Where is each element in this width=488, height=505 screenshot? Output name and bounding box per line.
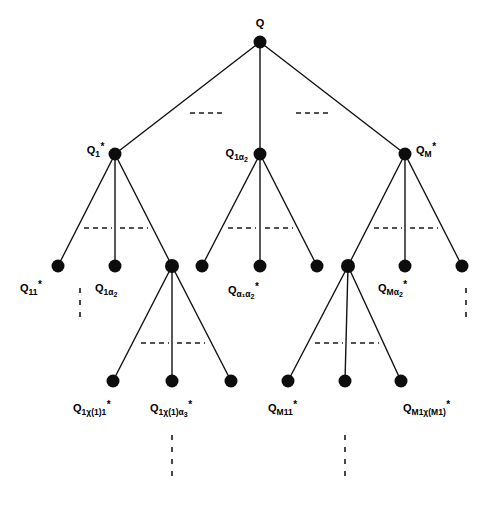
label-subscript: 1χ(1)1	[82, 406, 107, 416]
label-subscript: M1χ(M1)	[412, 406, 446, 416]
tree-edge	[172, 266, 231, 381]
label-subscript-2: 2	[114, 290, 118, 297]
node-label-level3_b: Q1α2	[95, 283, 117, 294]
tree-node-n2a	[109, 148, 122, 161]
label-base: Q	[73, 402, 82, 414]
tree-node-n3h	[399, 260, 412, 273]
label-star-superscript: *	[107, 399, 111, 410]
node-label-level3_c: Qα₁α2*	[228, 285, 258, 296]
vertical-ellipsis-layer	[80, 288, 466, 482]
label-star-superscript: *	[403, 279, 407, 290]
label-subscript: 1	[95, 148, 100, 158]
tree-edge	[345, 266, 348, 381]
node-label-level2_mid: Q1α2	[226, 148, 248, 159]
node-label-level3_d: QMα2*	[378, 283, 407, 294]
tree-edge	[260, 154, 317, 266]
label-base: Q	[416, 144, 425, 156]
label-star-superscript: *	[38, 279, 42, 290]
label-subscript-2: 2	[399, 290, 403, 297]
label-subscript: M11	[277, 406, 293, 416]
tree-node-n4a	[107, 375, 120, 388]
tree-edge	[405, 154, 462, 266]
label-base: Q	[268, 402, 277, 414]
label-base: Q	[378, 282, 387, 294]
tree-node-n3b	[109, 260, 122, 273]
tree-node-n4f	[395, 375, 408, 388]
tree-node-n3g	[341, 259, 355, 273]
label-star-superscript: *	[101, 141, 105, 152]
label-subscript: 1χ(1)α3	[159, 406, 188, 416]
label-base: Q	[87, 144, 96, 156]
label-subscript-2: 3	[184, 410, 188, 417]
label-subscript: 11	[29, 286, 38, 296]
label-star-superscript: *	[446, 399, 450, 410]
label-subscript-2: 2	[244, 155, 248, 162]
tree-node-n3e	[254, 260, 267, 273]
edges-layer	[58, 42, 462, 381]
tree-edge	[202, 154, 260, 266]
tree-edge	[288, 266, 348, 381]
tree-node-n4e	[339, 375, 352, 388]
tree-edge	[113, 266, 172, 381]
label-star-superscript: *	[432, 141, 436, 152]
tree-node-n3i	[456, 260, 469, 273]
tree-node-n3f	[311, 260, 324, 273]
label-base: Q	[256, 17, 265, 29]
node-label-level2_left: Q1*	[87, 145, 104, 156]
node-label-level2_right: QM*	[416, 145, 436, 156]
node-label-level4_b: Q1χ(1)α3*	[150, 403, 192, 414]
label-base: Q	[95, 282, 104, 294]
tree-node-n4d	[282, 375, 295, 388]
tree-node-n3a	[52, 260, 65, 273]
tree-node-n3c	[165, 259, 179, 273]
label-subscript: 1α2	[234, 151, 248, 161]
label-base: Q	[403, 402, 412, 414]
tree-node-n4c	[225, 375, 238, 388]
horizontal-ellipsis-layer	[84, 113, 438, 343]
tree-edge	[115, 154, 172, 266]
label-star-superscript: *	[188, 399, 192, 410]
label-base: Q	[150, 402, 159, 414]
node-label-level4_c: QM11*	[268, 403, 297, 414]
tree-edge	[58, 154, 115, 266]
tree-node-n4b	[166, 375, 179, 388]
tree-node-n2b	[254, 148, 267, 161]
tree-node-n2c	[399, 148, 412, 161]
tree-node-root	[254, 36, 267, 49]
node-label-level3_a: Q11*	[20, 283, 41, 294]
tree-edge	[115, 42, 260, 154]
label-star-superscript: *	[255, 281, 259, 292]
tree-edge	[348, 154, 405, 266]
label-subscript: α₁α2	[237, 288, 255, 298]
node-label-root: Q	[256, 18, 265, 29]
tree-graphics	[0, 0, 488, 505]
label-subscript: M	[425, 148, 432, 158]
label-subscript-2: 2	[251, 292, 255, 299]
label-base: Q	[20, 282, 29, 294]
label-subscript: 1α2	[104, 286, 118, 296]
label-base: Q	[228, 284, 237, 296]
tree-node-n3d	[196, 260, 209, 273]
node-label-level4_a: Q1χ(1)1*	[73, 403, 110, 414]
label-star-superscript: *	[293, 399, 297, 410]
node-label-level4_d: QM1χ(M1)*	[403, 403, 450, 414]
tree-edge	[260, 42, 405, 154]
tree-diagram-canvas: QQ1*Q1α2QM*Q11*Q1α2Qα₁α2*QMα2*Q1χ(1)1*Q1…	[0, 0, 488, 505]
label-base: Q	[226, 147, 235, 159]
label-subscript: Mα2	[387, 286, 403, 296]
